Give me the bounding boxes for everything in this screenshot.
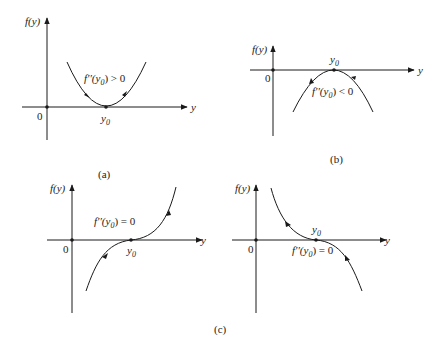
panel-c-left-y-axis-label: f(y) <box>50 182 66 195</box>
panel-c-right-origin-dot <box>254 238 258 242</box>
panel-c-right-y-axis-label: f(y) <box>235 182 251 195</box>
panel-b: f(y) y 0 y0 f′′(y0) < 0 (b) <box>250 43 423 166</box>
panel-b-origin-dot <box>271 68 275 72</box>
panel-a-condition-label: f′′(y0) > 0 <box>84 72 126 87</box>
panel-c-right-flow-arrow-left-icon <box>285 221 291 227</box>
panel-a-origin-dot <box>45 105 49 109</box>
panel-a-x-axis-label: y <box>190 101 196 113</box>
panel-a-origin-label: 0 <box>37 110 43 122</box>
panel-c-right-condition-label: f′′(y0) = 0 <box>292 244 334 259</box>
panel-c-left-origin-label: 0 <box>63 243 69 255</box>
panel-b-condition-label: f′′(y0) < 0 <box>312 85 354 100</box>
panel-b-equilibrium-dot <box>332 68 336 72</box>
panel-c-caption: (c) <box>214 323 227 336</box>
panel-c-left: f(y) y 0 y0 f′′(y0) = 0 <box>47 182 206 313</box>
panel-b-y-axis-label: f(y) <box>252 43 268 56</box>
phase-diagram-figure: f(y) y 0 y0 f′′(y0) > 0 (a) f(y) y 0 y0 … <box>0 0 443 352</box>
panel-c-left-origin-dot <box>70 238 74 242</box>
panel-c-left-condition-label: f′′(y0) = 0 <box>94 215 136 230</box>
panel-a: f(y) y 0 y0 f′′(y0) > 0 (a) <box>22 15 196 181</box>
panel-b-point-label: y0 <box>329 53 339 68</box>
panel-c-right: f(y) y 0 y0 f′′(y0) = 0 <box>232 182 390 313</box>
panel-c-right-x-axis-label: y <box>384 234 390 246</box>
panel-a-curve <box>67 62 146 106</box>
panel-c-left-equilibrium-dot <box>129 238 133 242</box>
panel-a-caption: (a) <box>98 168 111 181</box>
panel-c-right-flow-arrow-right-icon <box>345 255 350 261</box>
panel-a-flow-arrow-right-icon <box>122 91 127 97</box>
panel-c-left-x-axis-label: y <box>200 234 206 246</box>
panel-c-right-origin-label: 0 <box>248 243 254 255</box>
panel-b-origin-label: 0 <box>265 72 271 84</box>
panel-a-point-label: y0 <box>100 112 110 127</box>
panel-c-right-point-label: y0 <box>311 223 321 238</box>
panel-b-caption: (b) <box>330 153 343 166</box>
panel-b-x-axis-label: y <box>417 64 423 76</box>
panel-c-right-equilibrium-dot <box>314 238 318 242</box>
panel-a-equilibrium-dot <box>104 105 108 109</box>
panel-a-y-axis-label: f(y) <box>25 15 41 28</box>
panel-c-left-point-label: y0 <box>126 244 136 259</box>
